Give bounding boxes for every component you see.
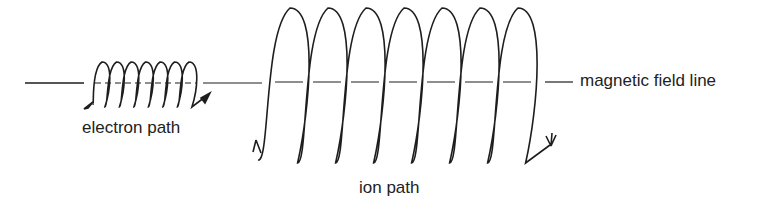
ion-end-arrow-icon xyxy=(546,133,556,146)
electron-path-label: electron path xyxy=(82,118,180,138)
ion-path-label: ion path xyxy=(359,178,420,198)
electron-start-arrow-icon xyxy=(84,102,93,109)
magnetic-field-line-label: magnetic field line xyxy=(580,71,716,91)
electron-helix xyxy=(93,62,205,107)
electron-end-arrow-icon xyxy=(201,93,210,103)
ion-start-arrow-icon xyxy=(253,140,261,153)
ion-helix xyxy=(258,8,550,163)
